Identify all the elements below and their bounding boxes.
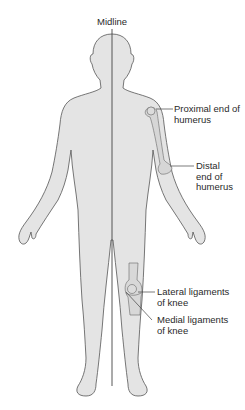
body-figure (0, 0, 245, 410)
distal-humerus-label: Distal end of humerus (196, 161, 233, 193)
proximal-humerus-label: Proximal end of humerus (174, 104, 240, 125)
lateral-ligaments-label: Lateral ligaments of knee (157, 287, 229, 308)
medial-ligaments-label: Medial ligaments of knee (157, 315, 228, 336)
midline-label: Midline (97, 17, 127, 28)
